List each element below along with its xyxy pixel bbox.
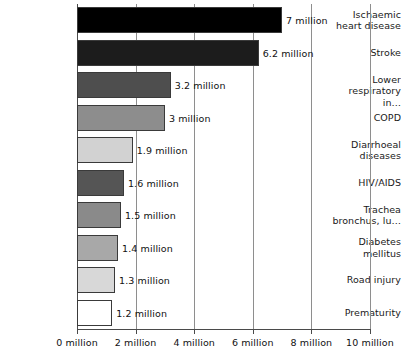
- bar[interactable]: [77, 72, 171, 98]
- bar-row[interactable]: 1.4 million: [77, 235, 370, 261]
- x-axis-tick: [370, 329, 371, 334]
- x-axis-tick-label: 8 million: [291, 337, 333, 348]
- bar-value-label: 1.5 million: [125, 210, 176, 221]
- plot-area: 7 million6.2 million3.2 million3 million…: [77, 4, 370, 329]
- bar-value-label: 1.9 million: [137, 145, 188, 156]
- bar-row[interactable]: 3 million: [77, 105, 370, 131]
- gridline-10m: [370, 4, 371, 329]
- bar-row[interactable]: 1.6 million: [77, 170, 370, 196]
- bar[interactable]: [77, 170, 124, 196]
- x-axis-tick-label: 4 million: [173, 337, 215, 348]
- x-axis-tick: [253, 329, 254, 334]
- bar-value-label: 1.4 million: [122, 242, 173, 253]
- bar-value-label: 1.6 million: [128, 177, 179, 188]
- bar[interactable]: [77, 137, 133, 163]
- bar[interactable]: [77, 235, 118, 261]
- bar-row[interactable]: 1.9 million: [77, 137, 370, 163]
- bar[interactable]: [77, 202, 121, 228]
- x-axis-tick-label: 0 million: [56, 337, 98, 348]
- bar-row[interactable]: 1.2 million: [77, 300, 370, 326]
- bar-row[interactable]: 6.2 million: [77, 40, 370, 66]
- x-axis-tick-label: 6 million: [232, 337, 274, 348]
- bar-row[interactable]: 1.3 million: [77, 267, 370, 293]
- x-axis-tick-label: 2 million: [115, 337, 157, 348]
- x-axis-tick-label: 10 million: [346, 337, 394, 348]
- bar-value-label: 6.2 million: [263, 47, 314, 58]
- bar-value-label: 3.2 million: [175, 80, 226, 91]
- bar-row[interactable]: 1.5 million: [77, 202, 370, 228]
- bar[interactable]: [77, 40, 259, 66]
- x-axis-tick: [77, 329, 78, 334]
- bar-value-label: 7 million: [286, 15, 328, 26]
- horizontal-bar-chart: Ischaemicheart diseaseStrokeLowerrespira…: [0, 0, 401, 356]
- x-axis-tick: [311, 329, 312, 334]
- bar-value-label: 1.3 million: [119, 275, 170, 286]
- bar-value-label: 1.2 million: [116, 307, 167, 318]
- bar-value-label: 3 million: [169, 112, 211, 123]
- x-axis-tick: [194, 329, 195, 334]
- bar[interactable]: [77, 7, 282, 33]
- bar-row[interactable]: 3.2 million: [77, 72, 370, 98]
- x-axis-line: [77, 329, 370, 330]
- bar[interactable]: [77, 300, 112, 326]
- x-axis-tick: [136, 329, 137, 334]
- bar[interactable]: [77, 267, 115, 293]
- bar[interactable]: [77, 105, 165, 131]
- bar-row[interactable]: 7 million: [77, 7, 370, 33]
